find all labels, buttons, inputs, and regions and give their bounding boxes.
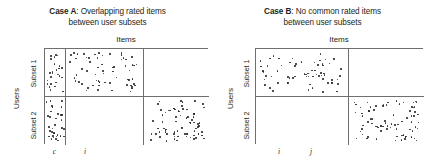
scatter-dot [73, 52, 75, 54]
scatter-dot [387, 125, 389, 127]
items-axis-label-a: Items [44, 35, 208, 44]
scatter-dot [260, 60, 262, 62]
scatter-dot [81, 68, 83, 70]
matrix-cell-r0-c0 [256, 49, 349, 97]
scatter-dot [307, 73, 309, 75]
scatter-dot [98, 52, 100, 54]
scatter-dot [376, 138, 378, 140]
scatter-dot [272, 90, 274, 92]
scatter-dot [395, 140, 397, 142]
scatter-dot [187, 116, 189, 118]
scatter-dot [169, 110, 171, 112]
scatter-dot [86, 90, 88, 92]
scatter-dot [198, 133, 200, 135]
scatter-dot [62, 91, 64, 93]
scatter-dot [53, 137, 55, 139]
scatter-dot [201, 131, 203, 133]
scatter-dot [61, 106, 63, 108]
scatter-dot [380, 126, 382, 128]
scatter-dot [130, 91, 132, 93]
scatter-dot [54, 86, 56, 88]
scatter-dot [417, 128, 419, 130]
case-title-rest-a: : Overlapping rated items [76, 7, 165, 16]
scatter-dot [159, 136, 161, 138]
scatter-dot [48, 126, 50, 128]
scatter-dot [60, 135, 62, 137]
two-case-matrix-figure: Case A: Overlapping rated items between … [0, 0, 430, 167]
scatter-dot [133, 65, 135, 67]
scatter-dot [186, 109, 188, 111]
case-label-b: Case B [264, 7, 291, 16]
matrix-case-b [255, 48, 423, 144]
scatter-dot [193, 116, 195, 118]
scatter-dot [306, 76, 308, 78]
scatter-dot [191, 119, 193, 121]
scatter-dot [416, 101, 418, 103]
case-title-rest-b: : No common rated items [291, 7, 381, 16]
matrix-cell-r1-c1 [349, 97, 424, 145]
scatter-dot [263, 72, 265, 74]
scatter-dot [321, 75, 323, 77]
scatter-dot [46, 101, 48, 103]
matrix-cell-r0-c2 [144, 49, 209, 97]
scatter-dot [112, 71, 114, 73]
scatter-dot [414, 138, 416, 140]
scatter-dot [312, 76, 314, 78]
scatter-dot [412, 130, 414, 132]
scatter-dot [182, 101, 184, 103]
scatter-dot [394, 124, 396, 126]
scatter-dot [406, 117, 408, 119]
scatter-dot [411, 121, 413, 123]
scatter-dot [319, 60, 321, 62]
scatter-dot [278, 58, 280, 60]
scatter-dot [308, 76, 310, 78]
scatter-dot [94, 54, 96, 56]
col-tick-a-0: c [44, 147, 65, 156]
scatter-dot [292, 58, 294, 60]
scatter-dot [195, 128, 197, 130]
scatter-dot [54, 56, 56, 58]
scatter-dot [98, 85, 100, 87]
row-label-subset-1-a: Subset 1 [30, 52, 37, 96]
scatter-dot [331, 79, 333, 81]
scatter-dot [193, 135, 195, 137]
scatter-dot [160, 109, 162, 111]
scatter-dot [86, 57, 88, 59]
matrix-cell-r0-c1 [349, 49, 424, 97]
scatter-dot [417, 114, 419, 116]
scatter-dot [81, 83, 83, 85]
scatter-dot [59, 65, 61, 67]
scatter-dot [416, 140, 418, 142]
scatter-dot [57, 74, 59, 76]
scatter-dot [97, 67, 99, 69]
scatter-dot [360, 107, 362, 109]
scatter-dot [159, 131, 161, 133]
scatter-dot [55, 118, 57, 120]
scatter-dot [277, 70, 279, 72]
scatter-dot [396, 128, 398, 130]
scatter-dot [60, 114, 62, 116]
users-axis-label-a: Users [12, 79, 21, 119]
row-label-subset-2-a: Subset 2 [30, 104, 37, 148]
scatter-dot [271, 76, 273, 78]
matrix-cell-r1-c1 [66, 97, 144, 145]
scatter-dot [63, 136, 65, 138]
scatter-dot [294, 76, 296, 78]
scatter-dot [50, 76, 52, 78]
scatter-dot [77, 53, 79, 55]
scatter-dot [397, 124, 399, 126]
scatter-dot [354, 102, 356, 104]
items-axis-label-b: Items [255, 35, 423, 44]
scatter-dot [184, 133, 186, 135]
scatter-dot [318, 75, 320, 77]
scatter-dot [413, 115, 415, 117]
scatter-dot [61, 67, 63, 69]
scatter-dot [367, 121, 369, 123]
scatter-dot [356, 138, 358, 140]
scatter-dot [322, 78, 324, 80]
scatter-dot [316, 74, 318, 76]
scatter-dot [333, 58, 335, 60]
scatter-dot [331, 82, 333, 84]
scatter-dot [165, 129, 167, 131]
scatter-dot [193, 138, 195, 140]
